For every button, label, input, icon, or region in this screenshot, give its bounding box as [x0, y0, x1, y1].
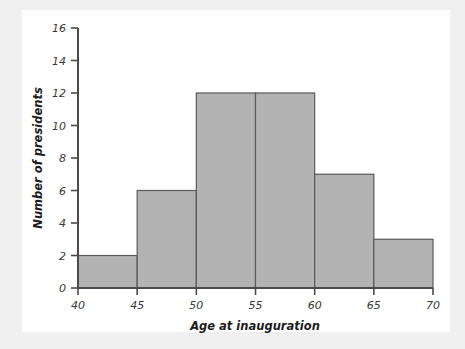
- bar-60-65[interactable]: [315, 174, 374, 288]
- y-tick-label-8: 8: [59, 152, 66, 165]
- page-root: 0 2 4 6 8 10 12 14 16: [0, 0, 465, 349]
- y-tick-label-16: 16: [52, 22, 66, 35]
- y-tick-label-6: 6: [59, 185, 66, 198]
- chart-svg: 0 2 4 6 8 10 12 14 16: [0, 0, 465, 349]
- y-tick-labels: 0 2 4 6 8 10 12 14 16: [52, 22, 66, 295]
- y-tick-label-12: 12: [52, 87, 66, 100]
- bar-65-70[interactable]: [374, 239, 433, 288]
- x-tick-labels: 40 45 50 55 60 65 70: [71, 299, 440, 312]
- x-tick-label-70: 70: [426, 299, 440, 312]
- y-tick-marks: [71, 28, 78, 288]
- x-tick-label-60: 60: [308, 299, 322, 312]
- bar-40-45[interactable]: [78, 256, 137, 289]
- x-axis-title: Age at inauguration: [189, 319, 320, 333]
- x-tick-label-45: 45: [130, 299, 144, 312]
- y-tick-label-2: 2: [59, 250, 66, 263]
- bar-55-60[interactable]: [256, 93, 315, 288]
- bar-45-50[interactable]: [137, 191, 196, 289]
- histogram-chart: 0 2 4 6 8 10 12 14 16: [0, 0, 465, 349]
- y-tick-label-4: 4: [59, 217, 66, 230]
- y-tick-label-10: 10: [52, 120, 66, 133]
- y-tick-label-0: 0: [59, 282, 66, 295]
- x-tick-label-50: 50: [189, 299, 203, 312]
- y-tick-label-14: 14: [52, 55, 66, 68]
- x-tick-marks: [78, 288, 433, 295]
- x-tick-label-65: 65: [367, 299, 381, 312]
- x-tick-label-55: 55: [249, 299, 263, 312]
- bar-50-55[interactable]: [196, 93, 255, 288]
- x-tick-label-40: 40: [71, 299, 85, 312]
- y-axis-title: Number of presidents: [31, 87, 45, 229]
